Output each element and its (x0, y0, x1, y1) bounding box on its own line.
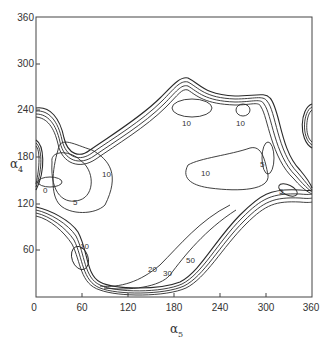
contour-10-top-right (236, 104, 250, 116)
contour-plot: 0 60 120 180 240 300 360 60 120 180 240 … (0, 0, 329, 347)
contours (36, 78, 312, 295)
svg-text:10: 10 (201, 169, 210, 178)
x-axis-ticks (82, 293, 266, 297)
svg-text:300: 300 (17, 58, 34, 69)
svg-text:300: 300 (258, 302, 275, 313)
svg-text:180: 180 (166, 302, 183, 313)
svg-text:30: 30 (163, 269, 172, 278)
x-axis-label: α 5 (170, 322, 183, 339)
svg-text:120: 120 (17, 198, 34, 209)
plot-frame (36, 17, 312, 297)
x-tick-labels: 0 60 120 180 240 300 360 (31, 302, 320, 313)
svg-text:180: 180 (17, 151, 34, 162)
contour-10-center (186, 148, 268, 190)
svg-text:360: 360 (17, 12, 34, 23)
svg-text:5: 5 (178, 330, 183, 339)
svg-text:240: 240 (17, 104, 34, 115)
svg-text:60: 60 (23, 244, 35, 255)
contour-left-edge (36, 140, 43, 190)
svg-text:0: 0 (43, 186, 48, 195)
y-axis-ticks (36, 64, 40, 250)
svg-text:5: 5 (260, 160, 265, 169)
svg-text:α: α (170, 322, 178, 336)
y-tick-labels: 60 120 180 240 300 360 (17, 12, 34, 255)
svg-text:10: 10 (102, 170, 111, 179)
svg-text:60: 60 (76, 302, 88, 313)
svg-text:120: 120 (120, 302, 137, 313)
contour-band-main (36, 78, 312, 194)
svg-text:α: α (10, 157, 18, 171)
svg-text:20: 20 (148, 265, 157, 274)
svg-text:4: 4 (18, 165, 23, 174)
svg-text:0: 0 (31, 302, 37, 313)
svg-text:240: 240 (212, 302, 229, 313)
contour-10-top-mid (172, 99, 212, 117)
svg-text:5: 5 (73, 198, 78, 207)
svg-text:10: 10 (182, 119, 191, 128)
svg-text:360: 360 (303, 302, 320, 313)
contour-right-edge (302, 104, 312, 148)
svg-text:10: 10 (236, 119, 245, 128)
contour-0-left (38, 177, 62, 187)
svg-text:5: 5 (279, 187, 284, 196)
svg-text:50: 50 (186, 256, 195, 265)
svg-text:10: 10 (80, 242, 89, 251)
